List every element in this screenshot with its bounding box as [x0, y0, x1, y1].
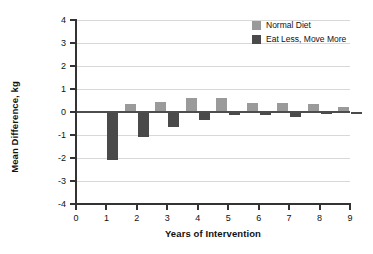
y-tick-label: -4	[58, 199, 66, 209]
gridline	[76, 66, 350, 67]
y-tick-label: -3	[58, 176, 66, 186]
y-tick-mark	[70, 88, 77, 90]
legend-swatch-eat-less-move-more	[252, 35, 261, 44]
x-tick-label: 6	[256, 213, 261, 223]
x-tick-label: 8	[317, 213, 322, 223]
bar	[199, 112, 210, 120]
plot-area: 43210-1-2-3-4 0123456789	[76, 20, 350, 204]
legend-swatch-normal-diet	[252, 21, 261, 30]
x-axis-line	[75, 203, 351, 205]
y-tick-label: -2	[58, 153, 66, 163]
bar	[138, 112, 149, 137]
y-tick-mark	[70, 180, 77, 182]
x-tick-label: 5	[226, 213, 231, 223]
x-tick-label: 2	[134, 213, 139, 223]
y-tick-label: 2	[61, 61, 66, 71]
x-tick-mark	[136, 204, 138, 210]
bar	[107, 112, 118, 160]
x-tick-mark	[227, 204, 229, 210]
legend-label: Normal Diet	[266, 20, 311, 30]
bar	[186, 98, 197, 112]
y-tick-label: -1	[58, 130, 66, 140]
legend-item: Normal Diet	[252, 19, 346, 31]
gridline	[76, 181, 350, 182]
legend-label: Eat Less, Move More	[266, 34, 346, 44]
x-tick-label: 3	[165, 213, 170, 223]
x-tick-label: 4	[195, 213, 200, 223]
bar	[216, 98, 227, 112]
zero-line	[76, 111, 350, 113]
y-tick-mark	[70, 65, 77, 67]
x-axis-title: Years of Intervention	[76, 228, 350, 239]
y-tick-label: 4	[61, 15, 66, 25]
x-tick-label: 9	[347, 213, 352, 223]
x-tick-mark	[288, 204, 290, 210]
y-tick-mark	[70, 111, 77, 113]
x-tick-label: 0	[73, 213, 78, 223]
y-tick-label: 3	[61, 38, 66, 48]
bar	[351, 112, 362, 114]
y-axis-title: Mean Difference, kg	[0, 0, 28, 254]
y-tick-label: 0	[61, 107, 66, 117]
x-tick-label: 7	[287, 213, 292, 223]
x-tick-mark	[258, 204, 260, 210]
chart-legend: Normal DietEat Less, Move More	[252, 19, 346, 47]
chart-figure: Mean Difference, kg 43210-1-2-3-4 012345…	[0, 0, 373, 254]
y-tick-mark	[70, 19, 77, 21]
x-tick-mark	[166, 204, 168, 210]
x-tick-mark	[319, 204, 321, 210]
y-tick-mark	[70, 134, 77, 136]
y-tick-mark	[70, 157, 77, 159]
x-tick-mark	[75, 204, 77, 210]
x-tick-mark	[105, 204, 107, 210]
gridline	[76, 89, 350, 90]
y-tick-label: 1	[61, 84, 66, 94]
x-tick-mark	[349, 204, 351, 210]
legend-item: Eat Less, Move More	[252, 33, 346, 45]
bar	[168, 112, 179, 127]
x-tick-label: 1	[104, 213, 109, 223]
x-tick-mark	[197, 204, 199, 210]
y-tick-mark	[70, 42, 77, 44]
